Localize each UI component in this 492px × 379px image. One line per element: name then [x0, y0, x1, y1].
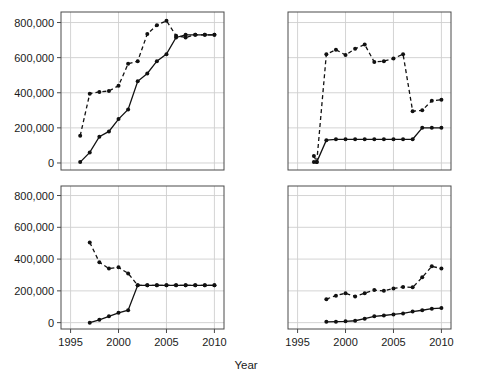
data-point [411, 109, 415, 113]
data-point [88, 321, 92, 325]
data-point [430, 264, 434, 268]
data-point [344, 291, 348, 295]
data-point [439, 267, 443, 271]
data-point [353, 137, 357, 141]
data-point [136, 283, 140, 287]
data-point [324, 297, 328, 301]
data-point [401, 52, 405, 56]
data-point [117, 265, 121, 269]
data-point [155, 283, 159, 287]
data-point [155, 59, 159, 63]
data-point [411, 310, 415, 314]
data-point [363, 137, 367, 141]
data-point [334, 294, 338, 298]
panel-bottom-left [57, 186, 224, 333]
data-point [203, 33, 207, 37]
x-axis-title: Year [234, 359, 257, 371]
xtick-label: 2010 [202, 336, 226, 348]
panel-frame [288, 12, 451, 170]
data-point [312, 154, 316, 158]
data-point [145, 71, 149, 75]
data-point [372, 60, 376, 64]
data-point [97, 260, 101, 264]
data-point [203, 283, 207, 287]
data-point [353, 47, 357, 51]
data-point [212, 283, 216, 287]
data-point [382, 289, 386, 293]
data-point [155, 23, 159, 27]
data-point [430, 307, 434, 311]
figure-container: 0200,000400,000600,000800,0000200,000400… [0, 0, 492, 379]
data-point [401, 137, 405, 141]
data-point [430, 99, 434, 103]
panel-bottom-right [288, 186, 451, 333]
ytick-label: 600,000 [14, 221, 54, 233]
data-point [411, 285, 415, 289]
data-point [334, 137, 338, 141]
data-point [212, 33, 216, 37]
data-point [107, 267, 111, 271]
data-point [372, 137, 376, 141]
data-point [126, 308, 130, 312]
ytick-label: 0 [48, 317, 54, 329]
data-point [363, 291, 367, 295]
data-point [353, 319, 357, 323]
xtick-label: 2010 [429, 336, 453, 348]
data-point [391, 312, 395, 316]
xtick-label: 1995 [285, 336, 309, 348]
data-point [334, 320, 338, 324]
data-point [401, 311, 405, 315]
data-point [382, 59, 386, 63]
data-point [363, 42, 367, 46]
data-point [164, 19, 168, 23]
data-point [117, 311, 121, 315]
series-line-dashed-series [326, 266, 441, 299]
data-point [174, 35, 178, 39]
data-point [117, 117, 121, 121]
data-point [391, 57, 395, 61]
data-point [372, 314, 376, 318]
data-point [145, 283, 149, 287]
data-point [164, 52, 168, 56]
data-point [88, 92, 92, 96]
data-point [439, 98, 443, 102]
data-point [184, 283, 188, 287]
data-point [107, 129, 111, 133]
panel-frame [61, 12, 224, 170]
data-point [391, 286, 395, 290]
panel-frame [61, 186, 224, 329]
data-point [430, 126, 434, 130]
xtick-label: 2005 [381, 336, 405, 348]
data-point [78, 160, 82, 164]
data-point [382, 137, 386, 141]
ytick-label: 800,000 [14, 190, 54, 202]
data-point [411, 137, 415, 141]
data-point [391, 137, 395, 141]
ytick-label: 800,000 [14, 17, 54, 29]
xtick-label: 1995 [58, 336, 82, 348]
data-point [324, 138, 328, 142]
panel-frame [288, 186, 451, 329]
series-line-solid-series [80, 35, 214, 162]
data-point [372, 288, 376, 292]
data-point [324, 52, 328, 56]
data-point [193, 33, 197, 37]
series-line-dashed-series [90, 242, 215, 285]
data-point [145, 32, 149, 36]
series-line-dashed-series [80, 21, 214, 136]
ytick-label: 400,000 [14, 87, 54, 99]
data-point [97, 90, 101, 94]
series-line-dashed-series [314, 44, 442, 162]
data-point [382, 313, 386, 317]
data-point [315, 160, 319, 164]
data-point [420, 308, 424, 312]
data-point [126, 107, 130, 111]
data-point [334, 48, 338, 52]
data-point [193, 283, 197, 287]
data-point [344, 53, 348, 57]
data-point [420, 126, 424, 130]
data-point [324, 320, 328, 324]
data-point [363, 317, 367, 321]
ytick-label: 600,000 [14, 52, 54, 64]
data-point [184, 33, 188, 37]
